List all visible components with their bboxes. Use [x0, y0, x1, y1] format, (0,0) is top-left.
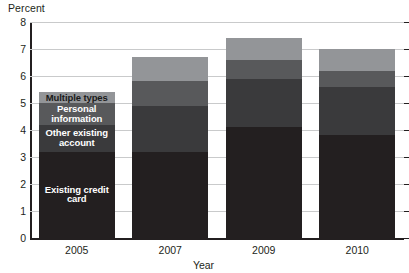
- segment-2007-existing-credit-card: [132, 152, 208, 238]
- y-tick-label-7: 7: [4, 43, 26, 55]
- y-tick-mark-1: [404, 211, 409, 212]
- y-tick-label-1: 1: [4, 205, 26, 217]
- y-tick-label-4: 4: [4, 124, 26, 136]
- bar-2009: [226, 38, 302, 238]
- segment-2009-existing-credit-card: [226, 127, 302, 238]
- gridline-0: [30, 238, 404, 240]
- bar-2010: [319, 49, 395, 238]
- y-tick-mark-4: [404, 130, 409, 131]
- segment-2009-personal-information: [226, 60, 302, 79]
- bar-2005: Existing credit cardOther existing accou…: [39, 92, 115, 238]
- segment-2005-personal-information: Personal information: [39, 103, 115, 125]
- y-axis-tick-labels: 012345678: [0, 22, 26, 238]
- y-tick-label-6: 6: [4, 70, 26, 82]
- segment-2010-personal-information: [319, 71, 395, 87]
- y-tick-mark-0: [404, 238, 409, 239]
- segment-2009-other-existing-account: [226, 79, 302, 128]
- segment-2010-existing-credit-card: [319, 135, 395, 238]
- bar-2007: [132, 57, 208, 238]
- y-axis-title: Percent: [8, 2, 45, 14]
- y-tick-mark-8: [404, 22, 409, 23]
- y-tick-label-2: 2: [4, 178, 26, 190]
- y-tick-mark-2: [404, 184, 409, 185]
- segment-2007-multiple-types: [132, 57, 208, 81]
- plot-area: Existing credit cardOther existing accou…: [30, 22, 404, 238]
- x-tick-label-2007: 2007: [159, 244, 182, 256]
- segment-2005-existing-credit-card: Existing credit card: [39, 152, 115, 238]
- segment-2010-multiple-types: [319, 49, 395, 71]
- y-tick-label-8: 8: [4, 16, 26, 28]
- y-tick-mark-6: [404, 76, 409, 77]
- segment-2005-multiple-types: Multiple types: [39, 92, 115, 103]
- segment-2010-other-existing-account: [319, 87, 395, 136]
- segment-2005-other-existing-account: Other existing account: [39, 125, 115, 152]
- y-tick-mark-3: [404, 157, 409, 158]
- y-tick-mark-5: [404, 103, 409, 104]
- segment-2007-personal-information: [132, 81, 208, 105]
- y-tick-label-0: 0: [4, 232, 26, 244]
- x-tick-label-2010: 2010: [346, 244, 369, 256]
- legend-label-other-existing-account: Other existing account: [39, 128, 115, 147]
- y-tick-label-3: 3: [4, 151, 26, 163]
- bars: Existing credit cardOther existing accou…: [30, 22, 404, 238]
- legend-label-existing-credit-card: Existing credit card: [39, 185, 115, 204]
- x-tick-label-2005: 2005: [65, 244, 88, 256]
- y-tick-label-5: 5: [4, 97, 26, 109]
- legend-label-personal-information: Personal information: [39, 104, 115, 123]
- y-tick-mark-7: [404, 49, 409, 50]
- segment-2009-multiple-types: [226, 38, 302, 60]
- legend-label-multiple-types: Multiple types: [39, 93, 115, 103]
- x-axis-title: Year: [0, 259, 407, 271]
- segment-2007-other-existing-account: [132, 106, 208, 152]
- x-tick-label-2009: 2009: [252, 244, 275, 256]
